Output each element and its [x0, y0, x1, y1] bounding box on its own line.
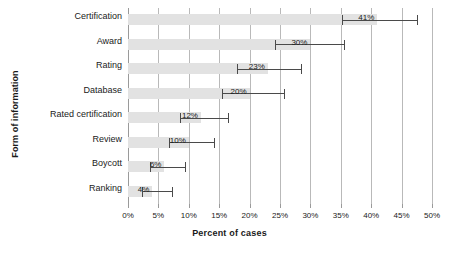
x-tick-label: 35%	[333, 211, 349, 220]
chart-row: Database20%	[128, 82, 432, 107]
chart-row: Boycott6%	[128, 155, 432, 180]
error-bar-cap-low	[342, 15, 343, 25]
category-label: Review	[92, 134, 122, 144]
gridline-50%	[432, 8, 433, 204]
x-tick-10%	[189, 204, 190, 208]
bar-value-label: 4%	[138, 185, 153, 194]
x-tick-label: 5%	[153, 211, 165, 220]
category-label: Certification	[74, 11, 122, 21]
error-bar-cap-high	[214, 138, 215, 148]
x-tick-label: 10%	[181, 211, 197, 220]
chart-row: Award30%	[128, 33, 432, 58]
error-bar-cap-high	[301, 64, 302, 74]
chart-row: Review10%	[128, 131, 432, 156]
bar-value-label: 10%	[170, 136, 189, 145]
error-bar-cap-high	[228, 113, 229, 123]
x-tick-label: 45%	[394, 211, 410, 220]
category-label: Ranking	[89, 183, 122, 193]
category-label: Award	[97, 36, 122, 46]
bar-value-label: 6%	[150, 160, 165, 169]
x-tick-50%	[432, 204, 433, 208]
y-axis-title: Form of information	[10, 19, 20, 209]
x-axis-title: Percent of cases	[0, 228, 459, 238]
chart-row: Rating23%	[128, 57, 432, 82]
error-bar-cap-high	[284, 89, 285, 99]
bar-value-label: 30%	[291, 38, 310, 47]
x-tick-label: 0%	[122, 211, 134, 220]
error-bar-cap-high	[417, 15, 418, 25]
x-tick-label: 30%	[302, 211, 318, 220]
category-label: Rating	[96, 60, 122, 70]
error-bar-cap-low	[222, 89, 223, 99]
error-bar-line	[237, 69, 300, 70]
bar-value-label: 20%	[231, 87, 250, 96]
plot-area: 0%5%10%15%20%25%30%35%40%45%50%Certifica…	[128, 8, 432, 204]
x-tick-45%	[402, 204, 403, 208]
x-tick-15%	[219, 204, 220, 208]
category-label: Database	[83, 85, 122, 95]
error-bar-cap-high	[344, 40, 345, 50]
error-bar-cap-high	[185, 162, 186, 172]
bar	[128, 14, 377, 25]
x-tick-label: 25%	[272, 211, 288, 220]
error-bar-line	[342, 20, 417, 21]
error-bar-cap-low	[180, 113, 181, 123]
bar-value-label: 41%	[358, 13, 377, 22]
x-tick-20%	[250, 204, 251, 208]
error-bar-cap-high	[172, 187, 173, 197]
chart-row: Certification41%	[128, 8, 432, 33]
error-bar-cap-low	[275, 40, 276, 50]
x-tick-label: 50%	[424, 211, 440, 220]
x-tick-5%	[158, 204, 159, 208]
x-tick-40%	[371, 204, 372, 208]
x-tick-25%	[280, 204, 281, 208]
error-bar-cap-low	[237, 64, 238, 74]
category-label: Rated certification	[50, 109, 122, 119]
x-tick-label: 40%	[363, 211, 379, 220]
x-tick-label: 20%	[242, 211, 258, 220]
category-label: Boycott	[92, 158, 122, 168]
chart-row: Ranking4%	[128, 180, 432, 205]
bar-value-label: 12%	[182, 111, 201, 120]
x-tick-label: 15%	[211, 211, 227, 220]
x-tick-30%	[310, 204, 311, 208]
x-tick-0%	[128, 204, 129, 208]
x-tick-35%	[341, 204, 342, 208]
bar-value-label: 23%	[249, 62, 268, 71]
chart-row: Rated certification12%	[128, 106, 432, 131]
chart-root: Form of information 0%5%10%15%20%25%30%3…	[0, 0, 459, 254]
